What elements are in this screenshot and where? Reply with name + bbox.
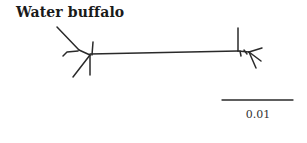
main-branch xyxy=(90,51,238,54)
left-cluster xyxy=(57,27,93,77)
right-cluster xyxy=(238,28,262,68)
scale-bar-label: 0.01 xyxy=(242,108,274,121)
phylogenetic-tree xyxy=(0,0,307,143)
